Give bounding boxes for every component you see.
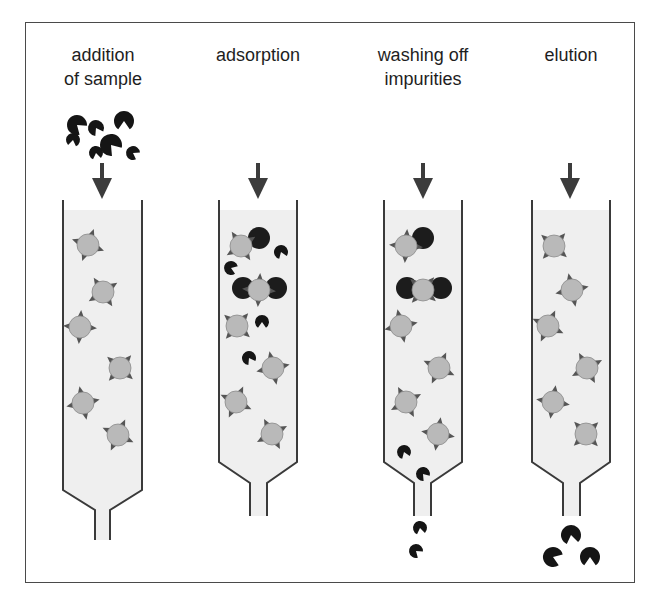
- target-molecule: [540, 544, 564, 569]
- target-molecule: [63, 111, 90, 138]
- bead-body: [107, 424, 129, 446]
- column-elution: [532, 163, 610, 569]
- arrow-head: [560, 178, 580, 199]
- bead-body: [395, 391, 417, 413]
- bead-body: [543, 235, 565, 257]
- bead-body: [428, 357, 450, 379]
- bead-body: [537, 315, 559, 337]
- bead-body: [390, 315, 412, 337]
- target-molecule: [559, 523, 582, 544]
- bead-body: [92, 281, 114, 303]
- flow-arrow-icon: [248, 163, 268, 199]
- bead-body: [542, 391, 564, 413]
- diagram-canvas: addition of sample adsorption washing of…: [0, 0, 655, 612]
- impurity-molecule: [406, 541, 425, 560]
- flow-arrow-icon: [92, 163, 112, 199]
- flow-arrow-icon: [413, 163, 433, 199]
- bead-body: [427, 423, 449, 445]
- bead-body: [261, 423, 283, 445]
- bead-body: [575, 423, 597, 445]
- column-adsorption: [219, 163, 297, 516]
- resin-bead: [224, 313, 250, 339]
- bead-body: [72, 392, 94, 414]
- bead-body: [225, 391, 247, 413]
- resin-bead: [107, 355, 133, 381]
- bead-body: [561, 279, 583, 301]
- bead-body: [395, 235, 417, 257]
- resin-bead: [410, 277, 436, 303]
- bead-body: [412, 279, 434, 301]
- arrow-head: [92, 178, 112, 199]
- bead-body: [576, 357, 598, 379]
- chromatography-columns: [0, 0, 655, 612]
- impurity-molecule: [85, 117, 106, 138]
- flow-arrow-icon: [560, 163, 580, 199]
- arrow-head: [413, 178, 433, 199]
- target-molecule: [580, 547, 600, 565]
- impurity-molecule: [412, 520, 428, 535]
- bead-body: [77, 234, 99, 256]
- bead-body: [226, 315, 248, 337]
- target-molecule: [114, 111, 134, 129]
- bead-body: [262, 357, 284, 379]
- bead-body: [248, 279, 270, 301]
- column-washing: [384, 163, 462, 560]
- bead-body: [69, 316, 91, 338]
- bead-body: [230, 235, 252, 257]
- resin-bead: [574, 422, 598, 446]
- resin-bead: [541, 233, 567, 259]
- arrow-head: [248, 178, 268, 199]
- column-addition: [63, 111, 142, 540]
- impurity-molecule: [123, 143, 141, 161]
- bead-body: [109, 357, 131, 379]
